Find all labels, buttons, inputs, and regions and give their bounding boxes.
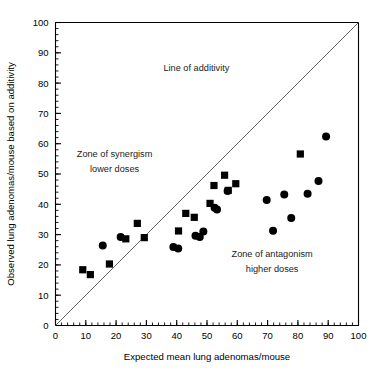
data-point-square <box>79 266 86 273</box>
data-point-circle <box>304 190 312 198</box>
data-point-square <box>134 220 141 227</box>
x-tick-label: 30 <box>141 330 152 341</box>
y-axis-title: Observed lung adenomas/mouse based on ad… <box>5 62 16 286</box>
data-point-circle <box>287 214 295 222</box>
zone-of-synergism-label-line2: lower doses <box>90 164 139 174</box>
y-tick-label: 70 <box>38 108 49 119</box>
data-point-square <box>232 180 239 187</box>
data-point-circle <box>315 177 323 185</box>
x-tick-label: 100 <box>351 330 367 341</box>
data-point-circle <box>280 191 288 199</box>
y-tick-label: 60 <box>38 138 49 149</box>
x-tick-label: 70 <box>262 330 273 341</box>
zone-of-synergism-label-line1: Zone of synergism <box>77 149 153 159</box>
x-tick-label: 60 <box>232 330 243 341</box>
y-tick-label: 10 <box>38 290 49 301</box>
data-point-circle <box>269 227 277 235</box>
data-point-square <box>297 150 304 157</box>
y-tick-label: 50 <box>38 168 49 179</box>
y-tick-label: 100 <box>33 17 49 28</box>
y-tick-label: 40 <box>38 199 49 210</box>
data-point-square <box>182 210 189 217</box>
x-tick-label: 50 <box>202 330 213 341</box>
x-tick-label: 20 <box>111 330 122 341</box>
y-tick-label: 20 <box>38 259 49 270</box>
data-point-square <box>210 182 217 189</box>
data-point-square <box>175 227 182 234</box>
data-point-square <box>191 214 198 221</box>
data-point-circle <box>213 205 221 213</box>
data-point-circle <box>199 228 207 236</box>
data-point-circle <box>263 196 271 204</box>
x-tick-label: 0 <box>53 330 58 341</box>
data-point-circle <box>322 132 330 140</box>
data-point-circle <box>99 242 107 250</box>
x-tick-label: 90 <box>323 330 334 341</box>
data-point-square <box>87 271 94 278</box>
scatter-plot-figure: 0102030405060708090100010203040506070809… <box>0 0 374 373</box>
zone-of-antagonism-label-line1: Zone of antagonism <box>232 249 314 259</box>
x-tick-label: 40 <box>171 330 182 341</box>
y-tick-label: 90 <box>38 47 49 58</box>
x-axis-title: Expected mean lung adenomas/mouse <box>124 351 290 362</box>
zone-of-antagonism-label-line2: higher doses <box>246 264 299 274</box>
x-tick-label: 10 <box>81 330 92 341</box>
y-tick-label: 80 <box>38 78 49 89</box>
y-tick-label: 0 <box>43 320 48 331</box>
y-tick-label: 30 <box>38 229 49 240</box>
data-point-circle <box>224 187 232 195</box>
data-point-square <box>106 260 113 267</box>
data-point-circle <box>174 245 182 253</box>
data-point-square <box>221 172 228 179</box>
data-point-circle <box>117 233 125 241</box>
line-of-additivity-label: Line of additivity <box>163 63 229 73</box>
x-tick-label: 80 <box>293 330 304 341</box>
plot-canvas: 0102030405060708090100010203040506070809… <box>0 0 374 373</box>
data-point-square <box>141 234 148 241</box>
